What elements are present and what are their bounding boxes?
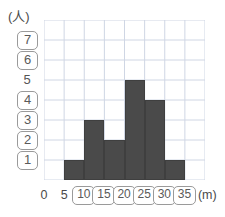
y-tick-1: 1 xyxy=(17,151,38,170)
bar xyxy=(145,100,165,180)
plot-area xyxy=(44,20,205,180)
x-axis-tick-labels: 05101520253035(m) xyxy=(0,186,225,212)
x-tick-5: 5 xyxy=(58,186,70,204)
x-tick-0: 0 xyxy=(38,186,50,204)
y-tick-2: 2 xyxy=(17,131,38,150)
y-axis-tick-labels: 7654321 xyxy=(0,0,44,217)
bar xyxy=(165,160,185,180)
y-tick-7: 7 xyxy=(17,31,38,50)
bar xyxy=(84,120,104,180)
bar-series xyxy=(44,20,205,180)
histogram-chart: (人) 7654321 05101520253035(m) xyxy=(0,0,225,217)
y-tick-6: 6 xyxy=(17,51,38,70)
bar xyxy=(64,160,84,180)
bar xyxy=(104,140,124,180)
x-axis-unit-label: (m) xyxy=(198,186,217,204)
x-tick-35: 35 xyxy=(173,186,196,205)
bar xyxy=(125,80,145,180)
y-tick-5: 5 xyxy=(16,71,38,88)
y-tick-3: 3 xyxy=(17,111,38,130)
y-tick-4: 4 xyxy=(17,91,38,110)
